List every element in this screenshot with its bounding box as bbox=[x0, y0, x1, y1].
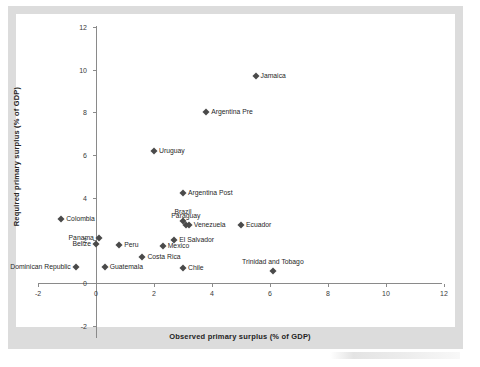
x-axis-title: Observed primary surplus (% of GDP) bbox=[0, 332, 480, 341]
figure: -2024681012 -2024681012 JamaicaArgentina… bbox=[0, 0, 480, 367]
plot-card bbox=[16, 14, 455, 327]
scan-artifact bbox=[330, 352, 460, 359]
y-axis-title: Required primary surplus (% of GDP) bbox=[12, 57, 21, 257]
